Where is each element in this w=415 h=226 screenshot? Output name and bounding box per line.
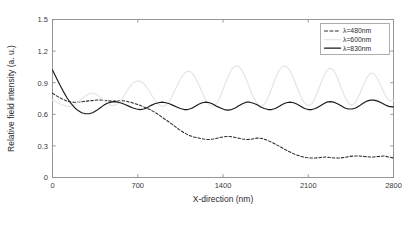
- y-tick-label: 1.5: [38, 15, 48, 24]
- x-tick-label: 2100: [300, 181, 317, 190]
- figure-container: 070014002100280000.30.60.91.21.5 X-direc…: [0, 0, 415, 226]
- y-tick-label: 0.6: [38, 110, 48, 119]
- x-tick-label: 1400: [215, 181, 232, 190]
- y-axis-title: Relative field intensity (a. u.): [6, 45, 16, 152]
- x-tick-label: 2800: [385, 181, 402, 190]
- legend-label-lambda-600nm[interactable]: λ=600nm: [343, 36, 371, 43]
- legend-label-lambda-830nm[interactable]: λ=830nm: [343, 45, 371, 52]
- x-tick-label: 700: [131, 181, 144, 190]
- x-tick-label: 0: [50, 181, 54, 190]
- legend-box: λ=480nmλ=600nmλ=830nm: [321, 24, 390, 55]
- y-tick-label: 0.3: [38, 142, 48, 151]
- y-tick-label: 0: [44, 173, 48, 182]
- legend-label-lambda-480nm[interactable]: λ=480nm: [343, 27, 371, 34]
- y-tick-label: 1.2: [38, 47, 48, 56]
- x-axis-title: X-direction (nm): [193, 194, 254, 204]
- y-tick-label: 0.9: [38, 79, 48, 88]
- chart-canvas: 070014002100280000.30.60.91.21.5 X-direc…: [0, 0, 415, 226]
